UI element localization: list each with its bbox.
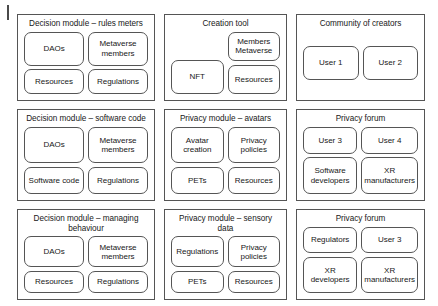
panel-grid: Decision module – rules meters DAOs Meta… — [17, 14, 426, 295]
panel-privacy-forum-upper: Privacy forum User 3 User 4 Software dev… — [296, 109, 425, 201]
panel-privacy-forum-lower: Privacy forum Regulators User 3 XR devel… — [296, 209, 425, 300]
panel-cell-spacer — [171, 32, 224, 61]
panel-body: DAOs Metaverse members Resources Regulat… — [24, 32, 148, 94]
panel-cell: XR manufacturers — [361, 157, 418, 194]
panel-title: Privacy module – sensory data — [171, 214, 280, 233]
panel-body: DAOs Metaverse members Software code Reg… — [24, 127, 148, 194]
panel-cell: Regulations — [88, 69, 148, 94]
panel-title: Creation tool — [171, 19, 280, 29]
panel-cell: PETs — [171, 271, 224, 293]
panel-cell: Privacy policies — [228, 127, 281, 164]
panel-cell: Software code — [24, 167, 84, 194]
panel-cell: PETs — [171, 167, 224, 194]
panel-cell: Resources — [228, 167, 281, 194]
panel-title: Privacy forum — [303, 114, 418, 124]
panel-cell: Privacy policies — [228, 236, 281, 267]
panel-cell: User 3 — [361, 227, 418, 254]
panel-body: User 1 User 2 — [303, 32, 418, 94]
panel-decision-module-rules-meters: Decision module – rules meters DAOs Meta… — [17, 14, 155, 101]
panel-title: Privacy forum — [303, 214, 418, 224]
panel-cell: Metaverse members — [88, 127, 148, 164]
panel-cell: Regulators — [303, 227, 357, 254]
panel-privacy-module-sensory-data: Privacy module – sensory data Regulation… — [164, 209, 287, 300]
panel-cell: Metaverse members — [88, 32, 148, 66]
diagram-canvas: Decision module – rules meters DAOs Meta… — [0, 0, 438, 306]
panel-body: Regulators User 3 XR developers XR manuf… — [303, 227, 418, 293]
panel-cell: XR manufacturers — [361, 257, 418, 293]
panel-decision-module-software-code: Decision module – software code DAOs Met… — [17, 109, 155, 201]
panel-body: User 3 User 4 Software developers XR man… — [303, 127, 418, 194]
panel-cell: User 2 — [363, 46, 419, 80]
panel-cell: Resources — [24, 69, 84, 94]
panel-cell: DAOs — [24, 236, 84, 267]
panel-cell: Resources — [24, 271, 84, 293]
panel-cell: Regulations — [88, 271, 148, 293]
panel-title: Decision module – managing behaviour — [24, 214, 148, 233]
panel-body: Avatar creation Privacy policies PETs Re… — [171, 127, 280, 194]
panel-cell: DAOs — [24, 127, 84, 164]
panel-title: Privacy module – avatars — [171, 114, 280, 124]
panel-community-of-creators: Community of creators User 1 User 2 — [296, 14, 425, 101]
panel-cell: DAOs — [24, 32, 84, 66]
panel-cell: Avatar creation — [171, 127, 224, 164]
panel-body: Members Metaverse NFT Resources — [171, 32, 280, 94]
panel-title: Decision module – software code — [24, 114, 148, 124]
panel-privacy-module-avatars: Privacy module – avatars Avatar creation… — [164, 109, 287, 201]
panel-cell: Resources — [228, 65, 281, 94]
panel-creation-tool: Creation tool Members Metaverse NFT Reso… — [164, 14, 287, 101]
panel-cell: Members Metaverse — [228, 32, 281, 61]
panel-cell: NFT — [171, 60, 224, 94]
panel-cell: User 1 — [303, 46, 359, 80]
panel-cell: Metaverse members — [88, 236, 148, 267]
panel-title: Community of creators — [303, 19, 418, 29]
scan-corner-tick-mark — [7, 5, 9, 20]
panel-body: DAOs Metaverse members Resources Regulat… — [24, 236, 148, 293]
panel-title: Decision module – rules meters — [24, 19, 148, 29]
panel-cell: Regulations — [171, 236, 224, 267]
panel-cell: User 3 — [303, 127, 357, 154]
panel-decision-module-managing-behaviour: Decision module – managing behaviour DAO… — [17, 209, 155, 300]
panel-cell: Regulations — [88, 167, 148, 194]
panel-cell: Resources — [228, 271, 281, 293]
panel-cell: User 4 — [361, 127, 418, 154]
panel-cell: Software developers — [303, 157, 357, 194]
panel-body: Regulations Privacy policies PETs Resour… — [171, 236, 280, 293]
panel-cell: XR developers — [303, 257, 357, 293]
